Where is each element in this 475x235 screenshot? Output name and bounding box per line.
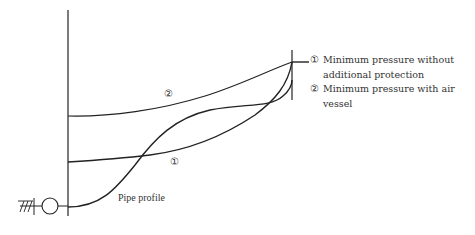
pipe-profile-label: Pipe profile [118, 192, 165, 203]
pump-icon [18, 198, 68, 215]
curve-2-marker: ② [164, 88, 173, 99]
diagram-canvas [0, 0, 475, 235]
legend: ① Minimum pressure without additional pr… [310, 53, 475, 111]
curve-1-marker: ① [170, 156, 179, 167]
legend-text: Minimum pressure with air vessel [323, 82, 475, 111]
legend-marker: ② [310, 82, 323, 111]
legend-text: Minimum pressure without additional prot… [323, 53, 475, 82]
legend-item-1: ① Minimum pressure without additional pr… [310, 53, 475, 82]
curve-1-no-protection [68, 62, 292, 162]
legend-item-2: ② Minimum pressure with air vessel [310, 82, 475, 111]
curve-2-air-vessel [68, 62, 292, 116]
pipe-profile-curve [68, 80, 292, 207]
legend-marker: ① [310, 53, 323, 82]
